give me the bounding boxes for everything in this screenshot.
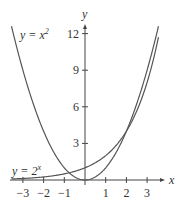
series-label-two-power-x: y = 2x — [11, 163, 41, 178]
y-tick-label: 3 — [73, 136, 79, 150]
x-tick-label: 2 — [123, 186, 129, 200]
series-label-x-squared: y = x2 — [19, 27, 49, 42]
x-tick-label: −2 — [37, 186, 50, 200]
y-tick-label: 9 — [73, 63, 79, 77]
y-axis-label: y — [81, 7, 88, 21]
x-axis-arrow-icon — [160, 178, 165, 182]
y-tick-label: 6 — [73, 100, 79, 114]
x-tick-label: 3 — [144, 186, 150, 200]
x-tick-label: −1 — [58, 186, 71, 200]
chart: −3−2−1123 36912 x y y = x2 y = 2x — [0, 0, 184, 209]
x-axis-label: x — [168, 173, 175, 187]
y-tick-label: 12 — [67, 27, 79, 41]
y-axis-arrow-icon — [83, 24, 87, 29]
x-tick-label: −3 — [17, 186, 30, 200]
x-tick-label: 1 — [103, 186, 109, 200]
